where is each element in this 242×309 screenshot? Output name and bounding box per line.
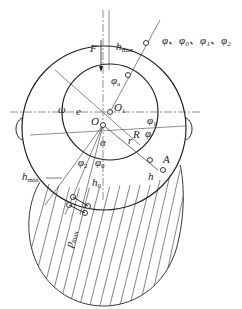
bushing-circle xyxy=(22,46,186,210)
svg-text:hmin: hmin xyxy=(22,170,39,184)
svg-text:e: e xyxy=(76,105,81,117)
svg-text:φ1: φ1 xyxy=(147,114,157,128)
svg-text:hmax: hmax xyxy=(116,40,134,54)
svg-text:ω: ω xyxy=(58,103,66,115)
svg-text:O1: O1 xyxy=(114,101,126,115)
svg-text:φ0: φ0 xyxy=(95,156,105,170)
label-F: F xyxy=(89,42,97,54)
svg-text:A: A xyxy=(162,153,170,165)
svg-text:pmax: pmax xyxy=(62,228,80,250)
svg-text:α: α xyxy=(100,136,106,148)
svg-text:R: R xyxy=(132,128,140,140)
svg-text:h: h xyxy=(148,170,154,182)
bearing-diagram: F hmax φ、φ₀、φ₁、φ₂ φa ω e O1 O φ1 R φ r α… xyxy=(0,0,242,309)
svg-text:r: r xyxy=(128,134,133,146)
svg-text:φ2: φ2 xyxy=(78,156,88,170)
svg-text:φ: φ xyxy=(145,127,151,139)
svg-text:h0: h0 xyxy=(92,176,102,190)
label-phi-list: φ、φ₀、φ₁、φ₂ xyxy=(162,34,231,46)
svg-text:O: O xyxy=(91,115,99,127)
svg-text:φa: φa xyxy=(111,74,121,88)
